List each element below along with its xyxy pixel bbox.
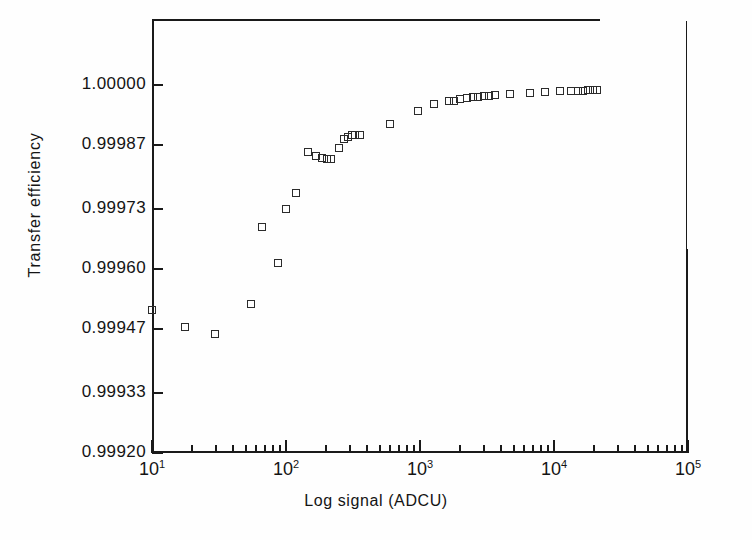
x-axis-tick-label: 104	[524, 458, 584, 480]
data-point-marker	[491, 91, 499, 99]
x-axis-tick-exponent: 3	[427, 458, 433, 470]
data-point-marker	[556, 87, 564, 95]
y-axis-tick-label: 0.99960	[0, 258, 146, 278]
data-point-marker	[506, 90, 514, 98]
data-point-marker	[181, 323, 189, 331]
data-point-marker	[526, 89, 534, 97]
data-point-marker	[292, 189, 300, 197]
x-axis-tick-label-text: 105	[675, 459, 701, 479]
y-axis-tick-label-text: 0.99947	[82, 318, 146, 338]
figure-canvas: 1.000000.999870.999730.999600.999470.999…	[0, 0, 752, 540]
data-point-marker	[148, 306, 156, 314]
y-axis-tick-label: 1.00000	[0, 74, 146, 94]
y-axis-tick-label: 0.99987	[0, 134, 146, 154]
y-axis-tick-label-text: 0.99987	[82, 134, 146, 154]
data-point-marker	[258, 223, 266, 231]
y-axis-tick-label: 0.99973	[0, 198, 146, 218]
data-point-marker	[541, 88, 549, 96]
data-point-marker	[414, 107, 422, 115]
data-point-marker	[430, 100, 438, 108]
data-point-marker	[282, 205, 290, 213]
y-axis-tick-label-text: 0.99960	[82, 258, 146, 278]
y-axis-tick-label-text: 0.99933	[82, 382, 146, 402]
x-axis-tick-label-text: 104	[541, 459, 567, 479]
y-axis-tick-label: 0.99933	[0, 382, 146, 402]
x-axis-tick-label: 102	[256, 458, 316, 480]
x-axis-tick-exponent: 2	[293, 458, 299, 470]
x-axis-tick-label: 105	[658, 458, 718, 480]
data-point-marker	[211, 330, 219, 338]
x-axis-tick-label-text: 101	[139, 459, 165, 479]
y-axis-title: Transfer efficiency	[26, 90, 44, 320]
x-axis-tick-label-text: 102	[273, 459, 299, 479]
x-axis-title: Log signal (ADCU)	[0, 492, 752, 510]
x-axis-tick-exponent: 4	[561, 458, 567, 470]
data-point-marker	[274, 259, 282, 267]
x-axis-tick-label: 103	[390, 458, 450, 480]
data-point-marker	[335, 144, 343, 152]
y-axis-tick-label-text: 1.00000	[82, 74, 146, 94]
data-point-marker	[386, 120, 394, 128]
y-axis-tick-label-text: 0.99973	[82, 198, 146, 218]
y-axis-tick-label: 0.99947	[0, 318, 146, 338]
x-axis-tick-label: 101	[122, 458, 182, 480]
data-point-marker	[327, 155, 335, 163]
data-point-marker	[356, 131, 364, 139]
data-point-marker	[593, 86, 601, 94]
data-point-layer	[152, 19, 688, 453]
x-axis-tick-exponent: 5	[695, 458, 701, 470]
x-axis-tick-exponent: 1	[159, 458, 165, 470]
data-point-marker	[247, 300, 255, 308]
x-axis-tick-label-text: 103	[407, 459, 433, 479]
